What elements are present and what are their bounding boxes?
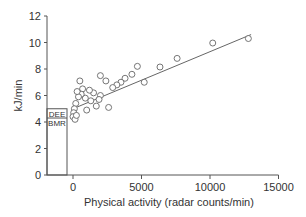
data-point: [110, 85, 116, 91]
data-point: [157, 64, 163, 70]
y-tick-label: 6: [35, 90, 41, 102]
y-tick-label: 0: [35, 169, 41, 181]
data-point: [129, 71, 135, 77]
data-point: [77, 78, 83, 84]
data-point: [84, 107, 90, 113]
data-point: [103, 78, 109, 84]
data-point: [73, 112, 79, 118]
y-tick-label: 10: [29, 37, 41, 49]
x-tick-label: 0: [70, 181, 76, 193]
x-tick-label: 10000: [195, 181, 226, 193]
y-axis-label: kJ/min: [12, 80, 24, 112]
scatter-plot: 024681012050001000015000Physical activit…: [0, 0, 306, 217]
chart: 024681012050001000015000Physical activit…: [0, 0, 306, 217]
data-point: [174, 55, 180, 61]
y-tick-label: 12: [29, 10, 41, 22]
x-tick-label: 5000: [129, 181, 153, 193]
data-point: [74, 89, 80, 95]
y-tick-label: 4: [35, 116, 41, 128]
data-point: [141, 79, 147, 85]
bmr-label: BMR: [48, 119, 66, 128]
data-point: [88, 98, 94, 104]
y-tick-label: 2: [35, 143, 41, 155]
data-point: [96, 96, 102, 102]
x-tick-label: 15000: [263, 181, 294, 193]
dee-label: DEE: [49, 110, 65, 119]
data-point: [97, 73, 103, 79]
data-point: [106, 104, 112, 110]
data-point: [134, 63, 140, 69]
y-tick-label: 8: [35, 63, 41, 75]
x-axis-label: Physical activity (radar counts/min): [84, 196, 254, 208]
data-point: [245, 36, 251, 42]
data-point: [93, 103, 99, 109]
data-point: [86, 87, 92, 93]
data-point: [210, 40, 216, 46]
